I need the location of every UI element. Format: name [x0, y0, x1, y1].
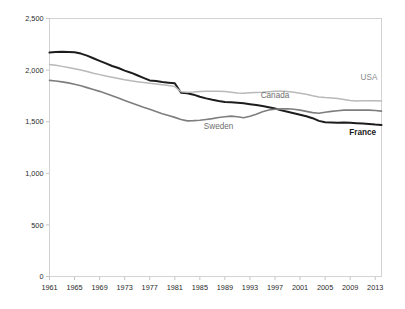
y-tick-label: 2,000 [25, 66, 43, 75]
line-chart: 05001,0001,5002,0002,500 196119651969197… [0, 0, 405, 309]
x-tick-label: 2009 [342, 283, 358, 292]
series-label-sweden: Sweden [204, 122, 234, 131]
y-tick-label: 0 [39, 272, 43, 281]
y-tick-label: 2,500 [25, 14, 43, 23]
y-axis-labels: 05001,0001,5002,0002,500 [25, 14, 43, 281]
x-tick-label: 1989 [217, 283, 233, 292]
series-label-france: France [349, 128, 376, 137]
series-inline-labels: FranceUSACanadaSweden [204, 73, 378, 137]
x-tick-label: 1981 [167, 283, 183, 292]
series-label-usa: USA [361, 73, 378, 82]
y-axis-ticks [46, 19, 50, 277]
series-label-canada: Canada [261, 91, 290, 100]
x-axis-ticks [50, 277, 376, 281]
series-line-usa [50, 64, 382, 101]
x-tick-label: 1997 [267, 283, 283, 292]
x-tick-label: 2001 [292, 283, 308, 292]
y-tick-label: 500 [31, 221, 43, 230]
x-tick-label: 1961 [41, 283, 57, 292]
x-tick-label: 1985 [192, 283, 208, 292]
x-tick-label: 1993 [242, 283, 258, 292]
x-tick-label: 2013 [367, 283, 383, 292]
x-tick-label: 1965 [66, 283, 82, 292]
series-lines [50, 52, 382, 125]
y-tick-label: 1,000 [25, 169, 43, 178]
chart-canvas: 05001,0001,5002,0002,500 196119651969197… [0, 0, 405, 309]
x-axis-labels: 1961196519691973197719811985198919931997… [41, 283, 383, 292]
plot-area-border [50, 19, 382, 277]
x-tick-label: 1969 [91, 283, 107, 292]
x-tick-label: 1977 [142, 283, 158, 292]
x-tick-label: 2005 [317, 283, 333, 292]
series-line-france [50, 52, 382, 125]
y-tick-label: 1,500 [25, 117, 43, 126]
x-tick-label: 1973 [117, 283, 133, 292]
